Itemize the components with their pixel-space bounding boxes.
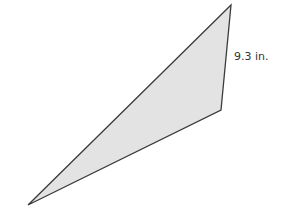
side-length-label: 9.3 in. xyxy=(234,50,269,63)
triangle-diagram xyxy=(0,0,281,211)
triangle xyxy=(28,5,231,205)
